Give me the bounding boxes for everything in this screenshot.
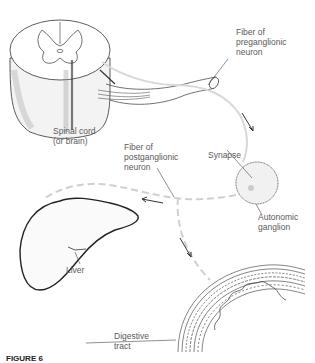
arrow-icon: [180, 238, 191, 257]
label-preganglionic-fiber: Fiber of preganglionic neuron: [236, 27, 287, 57]
label-spinal-cord: Spinal cord (or brain): [53, 126, 96, 146]
label-autonomic-ganglion: Autonomic ganglion: [258, 212, 298, 232]
caption-prefix: FIGURE 6: [6, 354, 43, 363]
label-liver: Liver: [66, 265, 84, 275]
label-postganglionic-fiber: Fiber of postganglionic neuron: [124, 142, 178, 172]
autonomic-ganglion: [236, 162, 278, 204]
label-synapse: Synapse: [208, 150, 241, 160]
digestive-tract: [178, 265, 305, 352]
leader-line: [157, 168, 174, 197]
figure-caption: FIGURE 6: [6, 354, 43, 363]
postganglionic-fiber: [45, 184, 236, 199]
liver: [20, 198, 138, 290]
label-digestive-tract: Digestive tract: [114, 331, 149, 351]
spinal-cord: [10, 20, 220, 138]
